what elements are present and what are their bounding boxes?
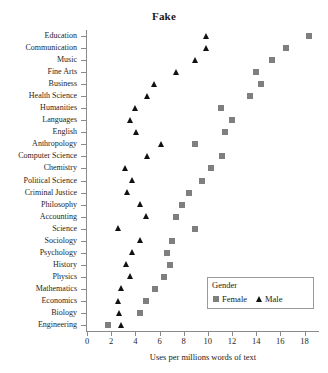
y-axis-tick xyxy=(81,241,86,242)
legend: Gender Female Male xyxy=(207,277,314,309)
x-axis-title: Uses per millions words of text xyxy=(87,352,319,362)
y-axis-label-philosophy: Philosophy xyxy=(41,201,77,209)
data-point-male xyxy=(115,225,121,231)
data-point-female xyxy=(164,250,170,256)
x-axis-tick-label: 16 xyxy=(270,337,290,346)
data-point-male xyxy=(133,129,139,135)
y-axis-label-accounting: Accounting xyxy=(40,213,77,221)
data-point-male xyxy=(129,249,135,255)
data-point-male xyxy=(173,69,179,75)
y-axis-label-chemistry: Chemistry xyxy=(44,164,77,172)
y-axis-tick xyxy=(81,96,86,97)
y-axis-line xyxy=(86,30,87,331)
data-point-female xyxy=(218,105,224,111)
data-point-female xyxy=(199,178,205,184)
data-point-female xyxy=(143,298,149,304)
data-point-female xyxy=(173,214,179,220)
y-axis-tick xyxy=(81,168,86,169)
y-axis-label-computer-science: Computer Science xyxy=(18,152,77,160)
y-axis-tick xyxy=(81,325,86,326)
data-point-female xyxy=(219,153,225,159)
y-axis-tick xyxy=(81,36,86,37)
data-point-female xyxy=(152,286,158,292)
y-axis-label-science: Science xyxy=(52,225,77,233)
data-point-female xyxy=(192,141,198,147)
legend-male-label: Male xyxy=(265,294,282,304)
data-point-male xyxy=(118,285,124,291)
data-point-male xyxy=(144,153,150,159)
data-point-male xyxy=(132,105,138,111)
y-axis-tick xyxy=(81,193,86,194)
y-axis-label-fine-arts: Fine Arts xyxy=(47,68,77,76)
data-point-male xyxy=(137,237,143,243)
data-point-female xyxy=(258,81,264,87)
x-axis-tick-label: 8 xyxy=(174,337,194,346)
y-axis-label-physics: Physics xyxy=(53,273,77,281)
y-axis-tick xyxy=(81,144,86,145)
y-axis-label-languages: Languages xyxy=(42,116,77,124)
data-point-female xyxy=(105,322,111,328)
x-axis-tick-label: 2 xyxy=(101,337,121,346)
y-axis-label-humanities: Humanities xyxy=(40,104,77,112)
chart-container: Fake EducationCommunicationMusicFine Art… xyxy=(0,0,328,373)
y-axis-label-criminal-justice: Criminal Justice xyxy=(25,189,77,197)
data-point-male xyxy=(123,261,129,267)
y-axis-label-history: History xyxy=(53,261,77,269)
data-point-male xyxy=(158,141,164,147)
y-axis-label-engineering: Engineering xyxy=(38,321,77,329)
y-axis-tick xyxy=(81,229,86,230)
data-point-male xyxy=(124,189,130,195)
data-point-female xyxy=(229,117,235,123)
data-point-male xyxy=(203,33,209,39)
data-point-male xyxy=(118,322,124,328)
data-point-male xyxy=(129,177,135,183)
data-point-male xyxy=(192,57,198,63)
y-axis-label-english: English xyxy=(53,128,77,136)
data-point-female xyxy=(137,310,143,316)
y-axis-tick xyxy=(81,108,86,109)
x-axis-tick-label: 6 xyxy=(150,337,170,346)
data-point-female xyxy=(167,262,173,268)
data-point-male xyxy=(143,213,149,219)
data-point-female xyxy=(208,165,214,171)
y-axis-label-political-science: Political Science xyxy=(23,177,77,185)
chart-title: Fake xyxy=(0,10,328,22)
data-point-female xyxy=(306,33,312,39)
y-axis-label-psychology: Psychology xyxy=(40,249,77,257)
x-axis-tick-label: 14 xyxy=(246,337,266,346)
data-point-male xyxy=(115,298,121,304)
y-axis-tick xyxy=(81,48,86,49)
y-axis-tick xyxy=(81,120,86,121)
y-axis-tick xyxy=(81,84,86,85)
data-point-male xyxy=(151,81,157,87)
y-axis-label-education: Education xyxy=(45,32,77,40)
y-axis-tick xyxy=(81,60,86,61)
legend-male-marker-icon xyxy=(256,296,262,302)
data-point-male xyxy=(127,117,133,123)
x-axis-tick-label: 10 xyxy=(198,337,218,346)
y-axis-tick xyxy=(81,265,86,266)
data-point-female xyxy=(192,226,198,232)
data-point-female xyxy=(186,190,192,196)
data-point-male xyxy=(144,93,150,99)
x-axis-tick-label: 12 xyxy=(222,337,242,346)
data-point-male xyxy=(203,45,209,51)
y-axis-label-biology: Biology xyxy=(51,309,77,317)
legend-title: Gender xyxy=(212,280,237,290)
y-axis-label-business: Business xyxy=(49,80,77,88)
y-axis-tick xyxy=(81,132,86,133)
y-axis-tick xyxy=(81,72,86,73)
y-axis-label-health-science: Health Science xyxy=(29,92,77,100)
data-point-female xyxy=(169,238,175,244)
legend-female-label: Female xyxy=(222,294,247,304)
data-point-male xyxy=(137,201,143,207)
data-point-male xyxy=(116,310,122,316)
y-axis-tick xyxy=(81,181,86,182)
legend-female-marker-icon xyxy=(213,296,219,302)
y-axis-tick xyxy=(81,156,86,157)
data-point-female xyxy=(247,93,253,99)
y-axis-tick xyxy=(81,277,86,278)
y-axis-label-economics: Economics xyxy=(41,297,77,305)
data-point-male xyxy=(122,165,128,171)
x-axis-tick-label: 18 xyxy=(295,337,315,346)
